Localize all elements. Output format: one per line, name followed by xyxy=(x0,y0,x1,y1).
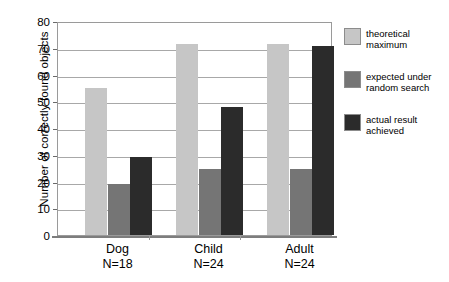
bar xyxy=(290,169,312,235)
legend-label-line1: expected under xyxy=(366,72,432,83)
y-axis-tick-mark xyxy=(53,22,57,23)
legend-swatch-icon xyxy=(344,114,361,131)
legend-label-line2: achieved xyxy=(366,126,417,137)
y-axis-tick-mark xyxy=(53,183,57,184)
bar xyxy=(267,44,289,235)
y-axis-tick-mark xyxy=(53,76,57,77)
legend-label: actual resultachieved xyxy=(366,114,417,136)
y-axis-tick-mark xyxy=(53,156,57,157)
x-axis-group-label: AdultN=24 xyxy=(240,242,360,272)
legend-swatch-icon xyxy=(344,71,361,88)
bar xyxy=(199,169,221,235)
y-axis-tick-mark xyxy=(53,209,57,210)
bar-group xyxy=(176,23,243,235)
y-axis-tick-mark xyxy=(53,49,57,50)
legend-swatch-icon xyxy=(344,28,361,45)
y-axis-tick-label: 40 xyxy=(10,123,57,135)
y-axis-tick-label: 30 xyxy=(10,150,57,162)
y-axis-tick-label: 80 xyxy=(10,16,57,28)
plot-area xyxy=(57,22,332,236)
y-axis-tick-label: 10 xyxy=(10,203,57,215)
bar-group xyxy=(85,23,152,235)
y-axis-tick-label: 70 xyxy=(10,43,57,55)
legend-label-line1: actual result xyxy=(366,115,417,126)
x-axis-tick-mark xyxy=(240,236,241,240)
legend-label: theoreticalmaximum xyxy=(366,28,410,50)
legend-label-line2: random search xyxy=(366,83,432,94)
x-axis-group-name: Dog xyxy=(106,242,129,256)
legend-entry: theoreticalmaximum xyxy=(344,28,410,50)
y-axis-tick-mark xyxy=(53,129,57,130)
bar xyxy=(176,44,198,235)
x-axis-tick-mark xyxy=(149,236,150,240)
x-axis-group-name: Adult xyxy=(285,242,314,256)
legend-label: expected underrandom search xyxy=(366,71,432,93)
x-axis-group-name: Child xyxy=(194,242,223,256)
bar-chart-figure: Number of correctly found objects 010203… xyxy=(0,0,449,282)
bar xyxy=(312,46,334,235)
y-axis-tick-mark xyxy=(53,102,57,103)
y-axis-tick-label: 20 xyxy=(10,177,57,189)
y-axis-tick-label: 0 xyxy=(10,230,57,242)
y-axis-tick-label: 60 xyxy=(10,70,57,82)
x-axis-group-count: N=24 xyxy=(240,257,360,272)
bar xyxy=(221,107,243,235)
bar xyxy=(108,184,130,235)
legend-label-line1: theoretical xyxy=(366,29,410,40)
legend-entry: expected underrandom search xyxy=(344,71,432,93)
legend-entry: actual resultachieved xyxy=(344,114,417,136)
legend-label-line2: maximum xyxy=(366,40,410,51)
bar xyxy=(130,157,152,235)
bar-group xyxy=(267,23,334,235)
y-axis-tick-label: 50 xyxy=(10,96,57,108)
x-axis-line xyxy=(52,236,337,238)
bar xyxy=(85,88,107,235)
